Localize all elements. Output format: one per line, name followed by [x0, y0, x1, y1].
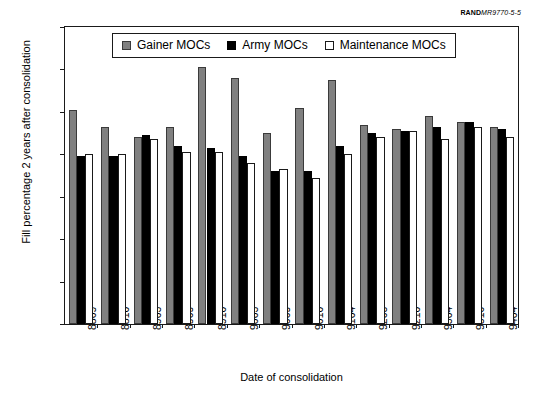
bar [392, 129, 400, 324]
plot-area: 020406080100120140 880988108903890989109… [65, 27, 518, 324]
y-axis-title: Fill percentage 2 years after consolidat… [20, 2, 32, 282]
bar [182, 152, 190, 324]
bar [457, 122, 465, 324]
bar [69, 110, 77, 324]
legend-swatch-icon [227, 41, 236, 50]
legend-label: Gainer MOCs [137, 38, 210, 52]
y-tick-mark [60, 282, 65, 283]
y-tick-mark [60, 69, 65, 70]
legend-label: Maintenance MOCs [340, 38, 446, 52]
bar [150, 139, 158, 324]
y-tick-mark [60, 197, 65, 198]
bar [498, 129, 506, 324]
bar [336, 146, 344, 324]
bar [433, 127, 441, 324]
source-credit: RANDMR9770-5-5 [460, 9, 521, 16]
y-tick-mark [60, 324, 65, 325]
legend-swatch-icon [325, 41, 334, 50]
bar [376, 137, 384, 324]
bar [441, 139, 449, 324]
bar [134, 137, 142, 324]
legend-entry: Gainer MOCs [122, 38, 210, 52]
source-credit-mark: RAND [460, 9, 481, 16]
chart-figure: RANDMR9770-5-5 Fill percentage 2 years a… [0, 0, 535, 400]
bar [474, 127, 482, 324]
bar [207, 148, 215, 324]
y-tick-mark [60, 154, 65, 155]
chart-legend: Gainer MOCsArmy MOCsMaintenance MOCs [112, 33, 456, 58]
bar [118, 154, 126, 324]
bar [304, 171, 312, 324]
y-tick-mark [60, 239, 65, 240]
source-credit-id: MR9770-5-5 [481, 9, 521, 16]
bar [368, 133, 376, 324]
legend-entry: Army MOCs [227, 38, 307, 52]
bar [247, 163, 255, 324]
bar [344, 154, 352, 324]
legend-label: Army MOCs [242, 38, 307, 52]
bar [490, 127, 498, 324]
bar [142, 135, 150, 324]
bar [77, 156, 85, 324]
y-tick-mark [60, 112, 65, 113]
bar [101, 127, 109, 324]
bar [215, 152, 223, 324]
bar [174, 146, 182, 324]
bar [279, 169, 287, 324]
bar [295, 108, 303, 324]
bar [409, 131, 417, 324]
bar [85, 154, 93, 324]
bar [263, 133, 271, 324]
legend-entry: Maintenance MOCs [325, 38, 446, 52]
x-axis-title: Date of consolidation [64, 371, 519, 383]
bar [166, 127, 174, 324]
bar [239, 156, 247, 324]
bar [231, 78, 239, 324]
bar [271, 171, 279, 324]
bar [312, 178, 320, 324]
bar [198, 67, 206, 324]
bar [360, 125, 368, 324]
bar [465, 122, 473, 324]
y-tick-mark [60, 27, 65, 28]
bar [401, 131, 409, 324]
bar [506, 137, 514, 324]
bar [109, 156, 117, 324]
bar [425, 116, 433, 324]
legend-swatch-icon [122, 41, 131, 50]
bar [328, 80, 336, 324]
